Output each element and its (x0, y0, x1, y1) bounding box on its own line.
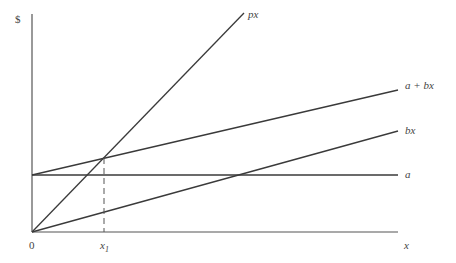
y-axis-label: $ (15, 13, 21, 25)
x-axis-label: x (403, 239, 409, 251)
px-label: px (247, 8, 259, 20)
line-a-plus-bx (32, 90, 398, 175)
a-label: a (405, 168, 411, 180)
line-bx (32, 131, 398, 232)
a-plus-bx-label: a + bx (405, 79, 434, 91)
break-even-diagram: $ 0 x1 x px a + bx bx a (0, 0, 456, 263)
line-px (32, 13, 244, 232)
x1-label: x1 (99, 239, 109, 254)
origin-label: 0 (29, 239, 35, 251)
bx-label: bx (405, 124, 416, 136)
